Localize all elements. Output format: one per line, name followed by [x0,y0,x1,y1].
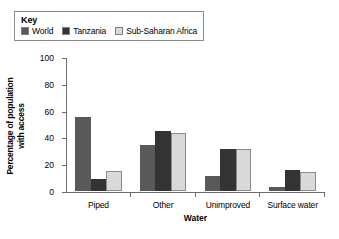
y-axis-tick-label: 60 [45,108,54,117]
chart-legend: Key World Tanzania Sub-Saharan Africa [14,11,204,41]
bar [285,170,301,191]
chart-figure: Key World Tanzania Sub-Saharan Africa Pe… [0,0,339,239]
y-axis-tick [62,138,66,139]
x-axis-category-label: Unimproved [206,200,250,210]
legend-items: World Tanzania Sub-Saharan Africa [21,26,197,36]
y-axis-line [66,58,67,193]
plot-area: 020406080100 PipedOtherUnimprovedSurface… [66,58,325,192]
bar [106,171,122,191]
legend-title: Key [21,15,197,25]
y-axis-title-line1: Percentage of population [5,77,16,174]
bar [91,179,107,191]
x-axis-line [66,192,325,193]
legend-label-tanzania: Tanzania [73,26,106,36]
y-axis-tick [62,192,66,193]
x-axis-tick [195,193,196,197]
x-axis-tick [259,193,260,197]
x-axis-tick [130,193,131,197]
legend-swatch-tanzania-icon [62,27,70,35]
legend-item-tanzania: Tanzania [62,26,106,36]
bar [300,172,316,191]
bar [220,149,236,191]
y-axis-tick-label: 100 [40,54,54,63]
bar-group [269,57,316,191]
legend-swatch-sub-saharan-africa-icon [115,27,123,35]
x-axis-tick [324,193,325,197]
bar [269,187,285,191]
y-axis-tick [62,165,66,166]
bar-group [75,57,122,191]
bar [205,176,221,191]
legend-label-world: World [32,26,53,36]
y-axis-title: Percentage of population with access [0,58,30,193]
bar-group [205,57,252,191]
x-axis-category-label: Piped [88,200,109,210]
bar [155,131,171,191]
y-axis-tick-label: 20 [45,161,54,170]
legend-item-sub-saharan-africa: Sub-Saharan Africa [115,26,197,36]
x-axis-category-label: Other [153,200,174,210]
y-axis-tick [62,112,66,113]
y-axis-tick [62,58,66,59]
y-axis-tick-label: 0 [49,188,54,197]
x-axis-category-label: Surface water [267,200,318,210]
y-axis-title-line2: with access [15,77,26,174]
y-axis-tick [62,85,66,86]
y-axis-tick-label: 40 [45,134,54,143]
bar [140,145,156,191]
bar [75,117,91,191]
legend-item-world: World [21,26,53,36]
legend-swatch-world-icon [21,27,29,35]
x-axis-title: Water [66,213,325,223]
bar [236,149,252,191]
legend-label-sub-saharan-africa: Sub-Saharan Africa [126,26,197,36]
bar-group [140,57,187,191]
bar [171,133,187,191]
y-axis-tick-label: 80 [45,81,54,90]
